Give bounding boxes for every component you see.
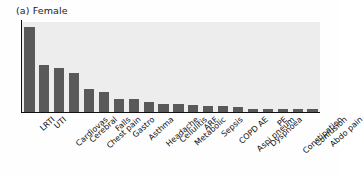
bar-series: [22, 22, 320, 112]
bar: [84, 89, 94, 112]
bar: [114, 99, 124, 112]
bar: [69, 73, 79, 112]
bar: [39, 65, 49, 112]
x-tick-label: UTI: [53, 115, 69, 130]
bar: [54, 68, 64, 112]
x-axis-tick-labels: LRTIUTICardiovasCerebralChest painFallsG…: [22, 113, 320, 177]
y-axis-line: [21, 20, 22, 113]
page-title: (a) Female: [16, 5, 68, 16]
bar: [129, 99, 139, 112]
bar: [99, 92, 109, 112]
bar: [24, 27, 34, 113]
